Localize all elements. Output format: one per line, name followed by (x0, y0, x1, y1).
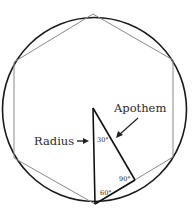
apothem-label: Apothem (113, 101, 166, 115)
angle-90-label: 90° (119, 175, 131, 183)
diagram-canvas: Apothem Radius 30° 90° 60° (0, 0, 194, 218)
apothem-arrow-icon (119, 118, 138, 135)
radius-line (93, 108, 95, 204)
hexagon-apothem-diagram: Apothem Radius 30° 90° 60° (0, 0, 194, 218)
angle-30-label: 30° (97, 136, 109, 144)
apothem-line (93, 108, 135, 180)
radius-arrowhead-icon (83, 138, 89, 144)
angle-60-label: 60° (100, 189, 112, 197)
radius-label: Radius (34, 134, 74, 148)
